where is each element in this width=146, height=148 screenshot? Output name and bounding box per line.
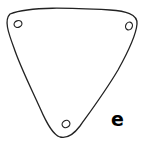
figure-label: e [111,110,124,129]
rounded-triangle-diagram [0,0,146,148]
